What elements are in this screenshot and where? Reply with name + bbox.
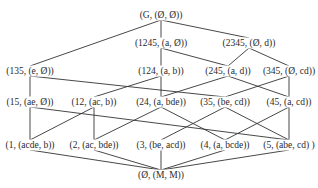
lattice-edge-n2345-n345 — [249, 48, 289, 66]
lattice-node-n1: (1, (acde, b)) — [4, 140, 55, 151]
lattice-edge-n1-bot — [30, 150, 161, 170]
lattice-node-n345: (345, (Ø, cd)) — [262, 66, 316, 77]
lattice-node-n135: (135, (e, Ø)) — [5, 66, 54, 77]
lattice-edge-n1245-n245 — [161, 48, 228, 66]
lattice-edge-n2345-n245 — [228, 48, 249, 66]
lattice-edge-top-n2345 — [161, 20, 249, 38]
lattice-node-n1245: (1245, (a, Ø)) — [134, 38, 188, 49]
lattice-edge-n15-n5 — [30, 107, 289, 140]
lattice-node-n5: (5, (abe, cd) ) — [262, 140, 315, 151]
lattice-node-n245: (245, (a, d)) — [204, 66, 251, 77]
lattice-node-n35: (35, (be, cd)) — [199, 97, 251, 108]
lattice-node-n124: (124, (a, b)) — [137, 66, 184, 77]
lattice-node-n3: (3, (be, acd)) — [135, 140, 186, 151]
lattice-edge-n12-n1 — [30, 107, 94, 140]
lattice-node-n2345: (2345, (Ø, d)) — [222, 38, 277, 49]
lattice-edge-n2-bot — [94, 150, 161, 170]
lattice-node-n45: (45, (a, cd)) — [266, 97, 313, 108]
lattice-edge-n5-bot — [161, 150, 289, 170]
lattice-edge-n124-n12 — [94, 76, 161, 97]
lattice-node-n15: (15, (ae, Ø)) — [6, 97, 55, 108]
lattice-node-n4: (4, (a, bcde)) — [199, 140, 250, 151]
concept-lattice-diagram: (G, (Ø, Ø))(1245, (a, Ø))(2345, (Ø, d))(… — [0, 0, 318, 188]
lattice-edges — [0, 0, 318, 188]
lattice-edge-n4-bot — [161, 150, 225, 170]
lattice-node-n2: (2, (ac, bde)) — [68, 140, 119, 151]
lattice-node-top: (G, (Ø, Ø)) — [139, 10, 184, 21]
lattice-node-n24: (24, (a, bde)) — [135, 97, 187, 108]
lattice-node-bot: (Ø, (M, M)) — [137, 170, 185, 181]
lattice-edge-n24-n2 — [94, 107, 161, 140]
lattice-node-n12: (12, (ac, b)) — [71, 97, 118, 108]
